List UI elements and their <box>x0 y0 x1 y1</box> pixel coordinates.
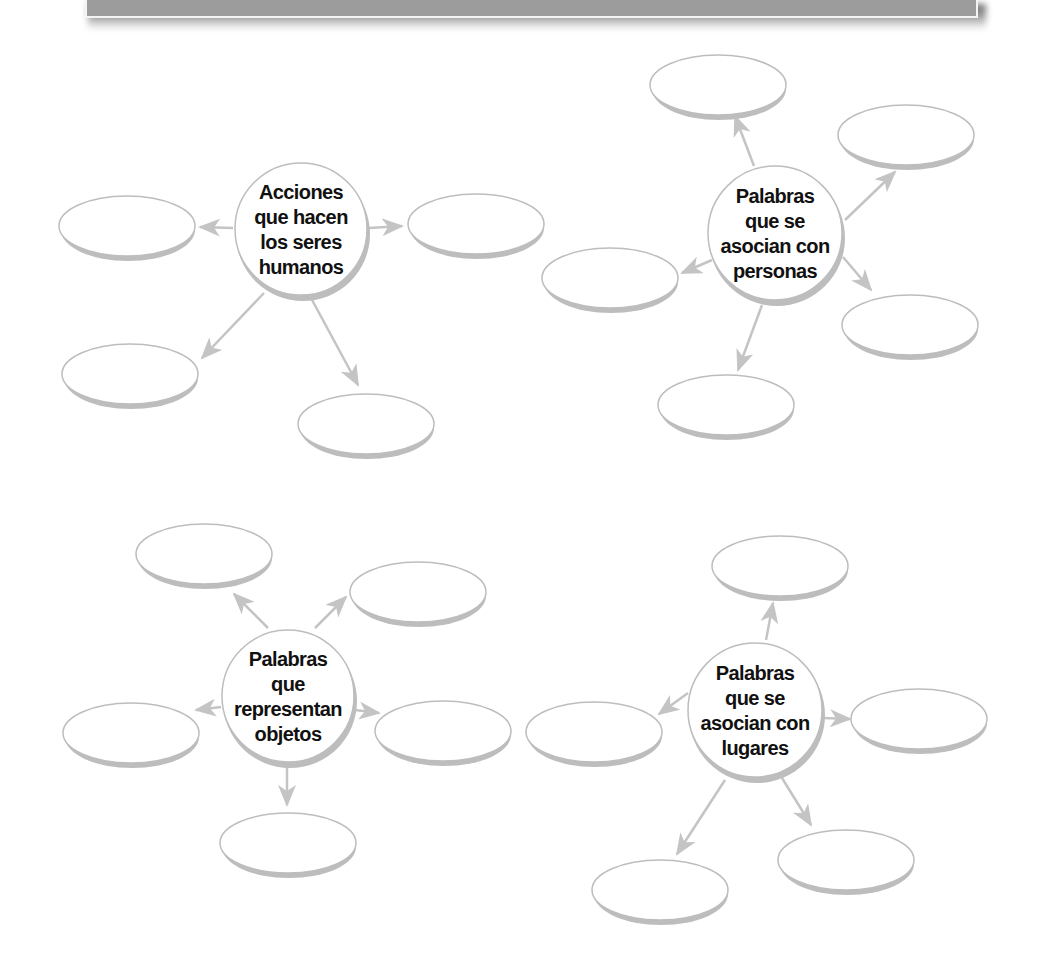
bubble-face[interactable] <box>542 248 678 308</box>
arrow-icon <box>369 226 402 228</box>
bubble-face[interactable] <box>220 813 356 873</box>
bubble-face[interactable] <box>838 105 974 165</box>
bubble-face[interactable] <box>63 703 199 763</box>
word-web-personas: Palabrasque seasocian conpersonas <box>542 55 978 440</box>
bubble-face[interactable] <box>851 689 987 749</box>
answer-bubble[interactable] <box>350 562 486 627</box>
arrow-icon <box>843 257 871 290</box>
arrow-icon <box>311 298 358 385</box>
word-web-acciones: Accionesque hacenlos sereshumanos <box>59 163 544 459</box>
arrow-icon <box>202 293 264 358</box>
answer-bubble[interactable] <box>59 196 195 261</box>
bubble-face[interactable] <box>136 524 272 584</box>
center-topic-label: lugares <box>722 737 789 759</box>
arrow-icon <box>355 710 379 713</box>
arrow-icon <box>782 778 811 825</box>
arrow-icon <box>659 693 688 714</box>
arrow-icon <box>845 172 895 220</box>
answer-bubble[interactable] <box>63 703 199 768</box>
bubble-face[interactable] <box>298 394 434 454</box>
answer-bubble[interactable] <box>62 344 198 409</box>
bubble-face[interactable] <box>842 295 978 355</box>
bubble-face[interactable] <box>650 55 786 115</box>
arrow-icon <box>766 603 773 640</box>
bubble-face[interactable] <box>712 536 848 596</box>
center-topic-label: representan <box>234 698 342 720</box>
center-topic-label: los seres <box>260 231 342 253</box>
bubble-face[interactable] <box>350 562 486 622</box>
answer-bubble[interactable] <box>136 524 272 589</box>
center-topic-circle: Palabrasque seasocian conlugares <box>688 643 825 783</box>
center-topic-circle: Palabrasque seasocian conpersonas <box>708 166 845 306</box>
center-topic-label: que <box>271 673 305 695</box>
center-topic-label: que se <box>725 687 785 709</box>
answer-bubble[interactable] <box>650 55 786 120</box>
bubble-face[interactable] <box>375 701 511 761</box>
arrow-icon <box>234 594 268 628</box>
center-topic-label: Palabras <box>736 185 815 207</box>
answer-bubble[interactable] <box>592 860 728 925</box>
arrow-icon <box>196 707 221 710</box>
arrow-icon <box>315 597 346 628</box>
center-topic-label: que hacen <box>254 206 348 228</box>
answer-bubble[interactable] <box>542 248 678 313</box>
word-web-objetos: Palabrasquerepresentanobjetos <box>63 524 511 878</box>
answer-bubble[interactable] <box>408 194 544 259</box>
answer-bubble[interactable] <box>526 702 662 767</box>
center-topic-label: humanos <box>259 256 344 278</box>
center-topic-label: asocian con <box>721 235 830 257</box>
bubble-face[interactable] <box>408 194 544 254</box>
bubble-face[interactable] <box>778 830 914 890</box>
answer-bubble[interactable] <box>712 536 848 601</box>
center-topic-label: objetos <box>255 723 322 745</box>
center-topic-circle: Accionesque hacenlos sereshumanos <box>235 163 370 301</box>
center-topic-label: personas <box>733 260 818 282</box>
arrow-icon <box>738 305 762 370</box>
arrow-icon <box>677 780 725 854</box>
answer-bubble[interactable] <box>658 375 794 440</box>
answer-bubble[interactable] <box>842 295 978 360</box>
answer-bubble[interactable] <box>220 813 356 878</box>
arrow-icon <box>682 260 712 273</box>
bubble-face[interactable] <box>658 375 794 435</box>
center-topic-label: Palabras <box>716 662 795 684</box>
bubble-face[interactable] <box>62 344 198 404</box>
center-topic-label: que se <box>745 210 805 232</box>
answer-bubble[interactable] <box>838 105 974 170</box>
arrow-icon <box>735 116 754 166</box>
answer-bubble[interactable] <box>298 394 434 459</box>
center-topic-circle: Palabrasquerepresentanobjetos <box>222 630 357 768</box>
center-topic-label: Palabras <box>249 648 328 670</box>
word-web-lugares: Palabrasque seasocian conlugares <box>526 536 987 925</box>
arrow-icon <box>200 227 233 228</box>
answer-bubble[interactable] <box>778 830 914 895</box>
bubble-face[interactable] <box>526 702 662 762</box>
answer-bubble[interactable] <box>851 689 987 754</box>
word-web-canvas: Accionesque hacenlos sereshumanosPalabra… <box>0 0 1040 960</box>
answer-bubble[interactable] <box>375 701 511 766</box>
bubble-face[interactable] <box>592 860 728 920</box>
center-topic-label: asocian con <box>701 712 810 734</box>
bubble-face[interactable] <box>59 196 195 256</box>
center-topic-label: Acciones <box>259 181 344 203</box>
arrow-icon <box>823 718 850 719</box>
